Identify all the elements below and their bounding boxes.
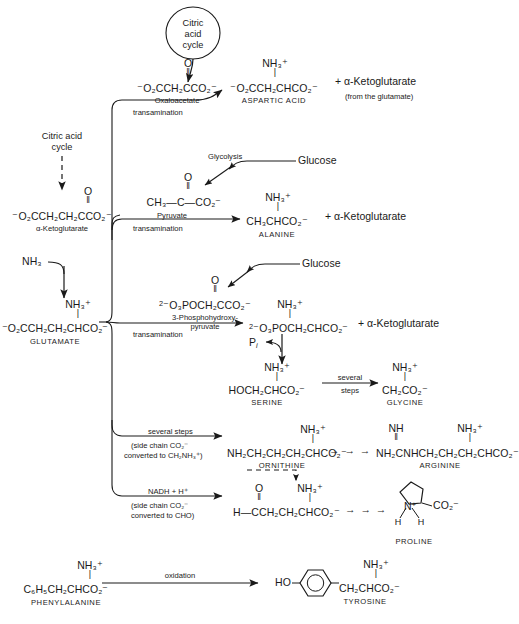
arginine-amino-group: NH₃⁺ | bbox=[457, 423, 482, 441]
serine-arrow-label: transamination bbox=[133, 330, 183, 339]
tyrosine-arrow-label: oxidation bbox=[165, 571, 195, 580]
carbonyl-double-bond: ‖ bbox=[84, 197, 92, 204]
amino-bond: | bbox=[77, 571, 102, 578]
phosphohydroxypyruvate-body: ⁻O₃POCH₂CCO₂⁻ bbox=[163, 299, 251, 311]
amino-bond: | bbox=[262, 69, 287, 76]
alanine-arrow-label: transamination bbox=[133, 224, 183, 233]
source-line-1: Citric acid bbox=[42, 131, 82, 142]
amino-bond: | bbox=[457, 434, 482, 441]
phosphohydroxypyruvate-carbonyl-group: O ‖ bbox=[211, 275, 219, 293]
glycine-label: GLYCINE bbox=[387, 398, 424, 407]
tyrosine-formula: CH₂CHCO₂⁻ bbox=[339, 582, 400, 594]
tyrosine-aromatic-circle bbox=[307, 575, 323, 591]
proline-nitrogen: N+ bbox=[404, 500, 416, 512]
glycolysis-second-arrow bbox=[205, 166, 232, 185]
ornithine-arrow-label: several steps bbox=[148, 427, 193, 436]
glucose-second-arrow bbox=[228, 270, 250, 287]
pyruvate-formula: CH₃—C—CO₂⁻ bbox=[147, 196, 222, 208]
nitrogen-symbol: N bbox=[404, 500, 412, 512]
semialdehyde-carbonyl-group: O ‖ bbox=[255, 483, 263, 501]
phenylalanine-label: PHENYLALANINE bbox=[31, 598, 101, 607]
phosphohydroxypyruvate-label-l2: pyruvate bbox=[190, 322, 219, 331]
ornithine-to-semialdehyde-dashed bbox=[247, 470, 296, 481]
aspartate-coproduct-note: (from the glutamate) bbox=[345, 92, 413, 101]
ornithine-amino-group: NH₃⁺ | bbox=[300, 424, 325, 442]
bubble-line-3: cycle bbox=[183, 40, 204, 51]
proline-carboxylate: CO₂⁻ bbox=[433, 499, 459, 511]
serine-label: SERINE bbox=[251, 398, 283, 407]
arginine-imino-group: NH ‖ bbox=[388, 423, 403, 441]
phosphohydroxypyruvate-label-l1: 3-Phosphohydroxy- bbox=[172, 313, 238, 322]
glycine-formula: CH₂CO₂⁻ bbox=[382, 384, 428, 396]
carbonyl-double-bond: ‖ bbox=[255, 494, 263, 501]
carbonyl-double-bond: ‖ bbox=[184, 69, 192, 76]
proline-note-l2: converted to CHO) bbox=[131, 511, 194, 520]
pi-release-arrow bbox=[266, 342, 281, 352]
glycolysis-label: Glycolysis bbox=[208, 152, 242, 161]
alanine-coproduct: + α-Ketoglutarate bbox=[325, 210, 406, 222]
ammonia-curved-arrow bbox=[48, 262, 64, 274]
phenylalanine-formula: C₆H₅CH₂CHCO₂⁻ bbox=[23, 583, 108, 595]
glycine-steps-label-l1: several bbox=[338, 373, 362, 382]
glutamate-semialdehyde-formula: H—CCH₂CH₂CHCO₂⁻ bbox=[233, 506, 340, 518]
pyruvate-carbonyl-group: O ‖ bbox=[184, 172, 192, 190]
nitrogen-charge: + bbox=[412, 500, 416, 509]
glutamate-formula: ⁻O₂CCH₂CH₂CHCO₂⁻ bbox=[2, 322, 109, 334]
glucose-label-alanine: Glucose bbox=[298, 154, 337, 166]
proline-note-l1: (side chain CO₂⁻ bbox=[131, 501, 188, 510]
oxaloacetate-label: Oxaloacetate bbox=[155, 96, 200, 105]
ketoglutarate-carbonyl-group: O ‖ bbox=[84, 186, 92, 204]
carbonyl-double-bond: ‖ bbox=[211, 286, 219, 293]
amino-bond: | bbox=[363, 570, 388, 577]
aspartic-acid-label: ASPARTIC ACID bbox=[242, 96, 306, 105]
glycine-steps-label-l2: steps bbox=[341, 386, 359, 395]
aspartate-amino-group: NH₃⁺ | bbox=[262, 58, 287, 76]
left-citric-cycle-source: Citric acid cycle bbox=[42, 131, 82, 153]
alanine-amino-group: NH₃⁺ | bbox=[265, 192, 290, 210]
alpha-ketoglutarate-formula: ⁻O₂CCH₂CH₂CCO₂⁻ bbox=[12, 210, 111, 222]
bubble-line-1: Citric bbox=[183, 18, 204, 29]
semialdehyde-to-proline-arrows: → → → bbox=[345, 503, 387, 515]
tyrosine-hydroxyl: HO bbox=[275, 576, 291, 588]
ornithine-to-arginine-arrows: → → → bbox=[329, 444, 371, 456]
glutamate-label: GLUTAMATE bbox=[30, 337, 80, 346]
oxaloacetate-carbonyl-group: O ‖ bbox=[184, 58, 192, 76]
serine-amino-group: NH₃⁺ | bbox=[264, 362, 289, 380]
tyrosine-amino-group: NH₃⁺ | bbox=[363, 559, 388, 577]
amino-bond: | bbox=[392, 373, 417, 380]
glutamate-brace-lower bbox=[106, 322, 122, 436]
semialdehyde-amino-group: NH₃⁺ | bbox=[297, 483, 322, 501]
glutamate-brace-upper bbox=[106, 215, 120, 322]
citric-acid-cycle-bubble-text: Citric acid cycle bbox=[183, 18, 204, 51]
aspartate-arrow-label: transamination bbox=[133, 108, 183, 117]
alpha-ketoglutarate-label: α-Ketoglutarate bbox=[36, 224, 88, 233]
arginine-label: ARGININE bbox=[419, 461, 460, 470]
phosphohydroxypyruvate-formula: 2⁻O₃POCH₂CCO₂⁻ bbox=[159, 299, 251, 311]
glutamate-brace-upper2 bbox=[112, 296, 120, 306]
bubble-line-2: acid bbox=[183, 29, 204, 40]
glucose-label-serine: Glucose bbox=[302, 257, 341, 269]
proline-arrow-label: NADH + H⁺ bbox=[148, 487, 188, 496]
alanine-formula: CH₃CHCO₂⁻ bbox=[246, 215, 307, 227]
phosphoserine-body: ⁻O₃POCH₂CHCO₂⁻ bbox=[253, 322, 348, 334]
serine-coproduct: + α-Ketoglutarate bbox=[358, 317, 439, 329]
inorganic-phosphate-label: Pi bbox=[249, 336, 258, 350]
proline-label: PROLINE bbox=[395, 537, 432, 546]
glucose-to-pyruvate-line bbox=[229, 161, 296, 169]
source-line-2: cycle bbox=[42, 142, 82, 153]
pyruvate-label: Pyruvate bbox=[157, 211, 187, 220]
amino-bond: | bbox=[300, 435, 325, 442]
oxaloacetate-formula: ⁻O₂CCH₂CCO₂⁻ bbox=[137, 82, 217, 94]
carbonyl-double-bond: ‖ bbox=[184, 183, 192, 190]
glutamate-amino-group: NH₃⁺ | bbox=[65, 299, 90, 317]
amino-bond: | bbox=[65, 310, 90, 317]
amino-bond: | bbox=[265, 203, 290, 210]
arginine-formula: NH₂CNHCH₂CH₂CH₂CHCO₂⁻ bbox=[376, 447, 519, 459]
aspartic-acid-formula: ⁻O₂CCH₂CHCO₂⁻ bbox=[230, 82, 317, 94]
glucose-to-phosphopyruvate-line bbox=[247, 264, 300, 272]
phosphoserine-amino-group: NH₃⁺ | bbox=[277, 299, 302, 317]
phosphoserine-formula: 2⁻O₃POCH₂CHCO₂⁻ bbox=[249, 322, 348, 334]
ornithine-label: ORNITHINE bbox=[259, 461, 306, 470]
imino-double-bond: ‖ bbox=[388, 434, 403, 441]
amino-bond: | bbox=[264, 373, 289, 380]
